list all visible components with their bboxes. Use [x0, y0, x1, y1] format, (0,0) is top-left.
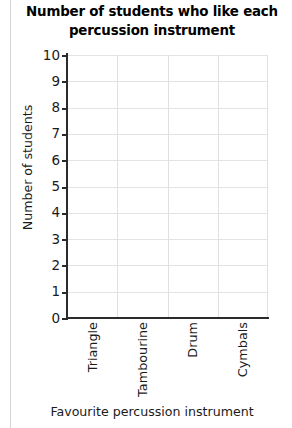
- plot-area: [67, 55, 268, 318]
- y-tick-1: [62, 292, 68, 294]
- x-axis-title: Favourite percussion instrument: [14, 404, 290, 419]
- y-tick-5: [62, 187, 68, 189]
- y-axis-tick-labels: 10 9 8 7 6 5 4 3 2 1 0: [32, 0, 60, 428]
- y-tick-label-7: 7: [34, 127, 60, 141]
- y-tick-10: [62, 55, 68, 57]
- x-tick-label-text: Drum: [187, 322, 200, 358]
- x-tick-label-drum: Drum: [187, 322, 200, 358]
- x-axis-line: [66, 317, 269, 319]
- gridline-v-1: [117, 55, 118, 318]
- y-tick-6: [62, 160, 68, 162]
- chart-plot: 10 9 8 7 6 5 4 3 2 1 0 Triangle Tambouri…: [0, 0, 292, 428]
- x-tick-label-text: Tambourine: [137, 322, 150, 397]
- x-tick-label-triangle: Triangle: [87, 322, 100, 372]
- y-tick-label-1: 1: [34, 285, 60, 299]
- y-tick-label-10: 10: [34, 49, 60, 63]
- y-tick-label-6: 6: [34, 154, 60, 168]
- y-tick-label-2: 2: [34, 259, 60, 273]
- gridline-v-4: [267, 55, 268, 318]
- y-tick-8: [62, 108, 68, 110]
- y-tick-9: [62, 81, 68, 83]
- x-tick-label-text: Triangle: [87, 322, 100, 372]
- y-tick-label-3: 3: [34, 233, 60, 247]
- y-tick-label-9: 9: [34, 75, 60, 89]
- x-tick-label-text: Cymbals: [237, 322, 250, 377]
- y-tick-label-0: 0: [34, 312, 60, 326]
- x-tick-label-tambourine: Tambourine: [137, 322, 150, 397]
- gridline-v-2: [168, 55, 169, 318]
- y-tick-0: [62, 318, 68, 320]
- gridline-v-3: [218, 55, 219, 318]
- y-tick-3: [62, 239, 68, 241]
- x-tick-label-cymbals: Cymbals: [237, 322, 250, 377]
- y-tick-label-4: 4: [34, 206, 60, 220]
- y-tick-2: [62, 265, 68, 267]
- y-axis-title: Number of students: [20, 73, 35, 263]
- y-tick-4: [62, 213, 68, 215]
- y-tick-label-8: 8: [34, 101, 60, 115]
- y-tick-7: [62, 134, 68, 136]
- y-tick-label-5: 5: [34, 180, 60, 194]
